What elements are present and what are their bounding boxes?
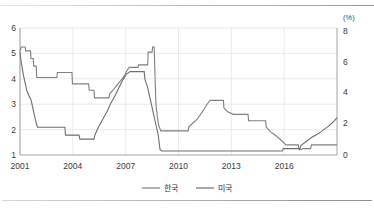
x-tick-2016: 2016: [275, 161, 294, 171]
bottom-divider: [2, 200, 372, 201]
left-tick-4: 4: [11, 74, 16, 84]
right-axis-ticks: 8 6 4 2 0: [343, 26, 348, 160]
right-tick-8: 8: [343, 26, 348, 36]
line-chart: 6 5 4 3 2 1 8 6 4 2 0 (%) 2001 2004 2007…: [0, 0, 374, 210]
left-tick-5: 5: [11, 48, 16, 58]
right-tick-4: 4: [343, 87, 348, 97]
x-tick-2004: 2004: [63, 161, 82, 171]
right-tick-6: 6: [343, 57, 348, 67]
x-tick-2010: 2010: [169, 161, 188, 171]
left-axis-ticks: 6 5 4 3 2 1: [11, 23, 16, 160]
left-tick-1: 1: [11, 150, 16, 160]
legend-label-usa: 미국: [218, 184, 232, 193]
x-axis-ticks: 2001 2004 2007 2010 2013 2016: [11, 161, 294, 171]
left-tick-6: 6: [11, 23, 16, 33]
right-tick-2: 2: [343, 118, 348, 128]
legend-label-korea: 한국: [164, 184, 178, 193]
x-tick-2007: 2007: [116, 161, 135, 171]
x-tick-2013: 2013: [222, 161, 241, 171]
x-tick-2001: 2001: [11, 161, 30, 171]
chart-figure: 6 5 4 3 2 1 8 6 4 2 0 (%) 2001 2004 2007…: [0, 0, 374, 210]
right-tick-0: 0: [343, 150, 348, 160]
left-tick-2: 2: [11, 125, 16, 135]
chart-legend: 한국 미국: [142, 184, 232, 193]
left-tick-3: 3: [11, 99, 16, 109]
top-divider: [0, 5, 374, 6]
unit-label: (%): [343, 13, 355, 22]
